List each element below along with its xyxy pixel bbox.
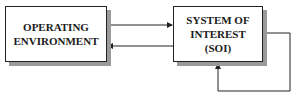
operating-environment-box: OPERATING ENVIRONMENT [5,6,107,62]
env-label-line1: OPERATING [14,20,99,34]
soi-label-line2: INTEREST [186,27,249,41]
env-label-line2: ENVIRONMENT [14,34,99,48]
soi-label-line3: (SOI) [186,41,249,55]
system-of-interest-box: SYSTEM OF INTEREST (SOI) [173,6,263,62]
system-context-diagram: OPERATING ENVIRONMENT SYSTEM OF INTEREST… [0,0,293,97]
soi-label-line1: SYSTEM OF [186,13,249,27]
